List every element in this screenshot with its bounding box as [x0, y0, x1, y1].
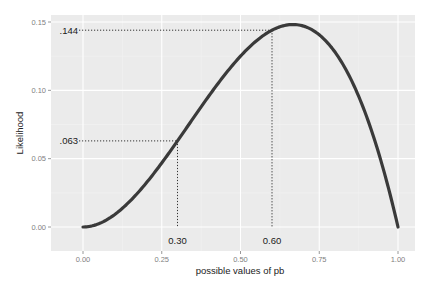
y-tick-label: 0.05 — [31, 154, 46, 163]
x-tick-label: 0.00 — [76, 255, 91, 264]
guide-y-label: .144 — [60, 25, 79, 36]
guide-x-label: 0.60 — [263, 235, 282, 246]
x-tick-label: 1.00 — [391, 255, 406, 264]
guide-y-label: .063 — [60, 135, 79, 146]
likelihood-chart: .0630.30.1440.60 0.000.250.500.751.00 0.… — [0, 0, 436, 287]
y-tick-label: 0.10 — [31, 86, 46, 95]
x-tick-label: 0.50 — [233, 255, 248, 264]
x-tick-label: 0.75 — [312, 255, 327, 264]
x-tick-label: 0.25 — [154, 255, 169, 264]
y-axis: 0.000.050.100.15 — [31, 18, 51, 232]
plot-panel — [51, 15, 415, 251]
y-tick-label: 0.15 — [31, 18, 46, 27]
y-axis-title: Likelihood — [14, 112, 25, 155]
y-tick-label: 0.00 — [31, 223, 46, 232]
x-axis-title: possible values of pb — [196, 265, 285, 276]
guide-x-label: 0.30 — [168, 235, 187, 246]
x-axis: 0.000.250.500.751.00 — [76, 251, 406, 264]
